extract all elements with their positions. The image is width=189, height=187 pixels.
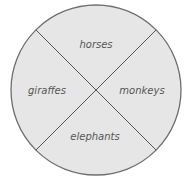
pie-chart: horses monkeys elephants giraffes [0,0,189,187]
slice-label-monkeys: monkeys [119,85,164,96]
slice-label-horses: horses [79,39,112,50]
slice-label-giraffes: giraffes [28,85,66,96]
slice-label-elephants: elephants [70,131,119,142]
